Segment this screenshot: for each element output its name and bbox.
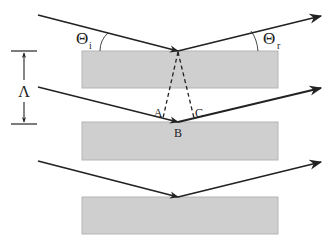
bragg-reflection-diagram: Θ i Θ r Λ A B C bbox=[0, 0, 331, 244]
layer-1 bbox=[82, 51, 278, 88]
layer-3 bbox=[82, 197, 278, 234]
theta-incident-label: Θ bbox=[76, 29, 88, 48]
reflected-angle-arc bbox=[251, 31, 258, 51]
theta-incident-subscript: i bbox=[89, 40, 92, 51]
incident-angle-arc bbox=[100, 33, 108, 51]
reflected-ray-1 bbox=[178, 16, 321, 51]
point-c-label: C bbox=[195, 106, 203, 120]
period-label: Λ bbox=[18, 83, 30, 100]
theta-reflected-label: Θ bbox=[263, 29, 275, 48]
reflected-ray-3 bbox=[178, 162, 321, 197]
incident-ray-3 bbox=[38, 161, 178, 197]
point-a-label: A bbox=[154, 106, 163, 120]
point-b-label: B bbox=[174, 126, 182, 140]
theta-reflected-subscript: r bbox=[277, 40, 281, 51]
